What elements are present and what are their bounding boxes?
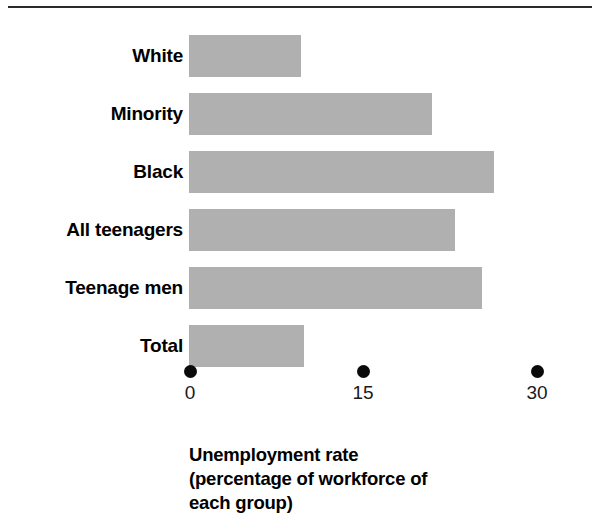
x-axis-tick-label: 30: [517, 382, 557, 404]
x-axis-tick-30: 30: [517, 365, 557, 404]
tick-dot-icon: [357, 365, 370, 378]
bar-row: Teenage men: [0, 267, 598, 309]
bar-value-white: [189, 35, 301, 77]
x-axis: 0 15 30: [0, 365, 598, 415]
bar-row: Black: [0, 151, 598, 193]
bar-category-label: Minority: [0, 93, 183, 135]
unemployment-rate-bar-chart: White Minority Black All teenagers Teena…: [0, 0, 598, 525]
bar-row: All teenagers: [0, 209, 598, 251]
bar-category-label: Teenage men: [0, 267, 183, 309]
caption-line-2: (percentage of workforce of: [189, 467, 519, 491]
x-axis-tick-label: 0: [170, 382, 210, 404]
plot-area: White Minority Black All teenagers Teena…: [0, 25, 598, 365]
bar-category-label: Total: [0, 325, 183, 367]
bar-value-black: [189, 151, 494, 193]
caption-line-3: each group): [189, 491, 519, 515]
bar-row: Total: [0, 325, 598, 367]
bar-value-teenage-men: [189, 267, 482, 309]
x-axis-tick-label: 15: [343, 382, 383, 404]
bar-row: White: [0, 35, 598, 77]
x-axis-tick-15: 15: [343, 365, 383, 404]
bar-value-all-teenagers: [189, 209, 455, 251]
bar-category-label: Black: [0, 151, 183, 193]
bar-category-label: White: [0, 35, 183, 77]
caption-line-1: Unemployment rate: [189, 443, 519, 467]
bar-row: Minority: [0, 93, 598, 135]
tick-dot-icon: [184, 365, 197, 378]
tick-dot-icon: [531, 365, 544, 378]
bar-value-total: [189, 325, 304, 367]
x-axis-tick-0: 0: [170, 365, 210, 404]
bar-value-minority: [189, 93, 432, 135]
bar-category-label: All teenagers: [0, 209, 183, 251]
x-axis-caption: Unemployment rate (percentage of workfor…: [189, 443, 519, 515]
top-divider-rule: [8, 6, 592, 8]
